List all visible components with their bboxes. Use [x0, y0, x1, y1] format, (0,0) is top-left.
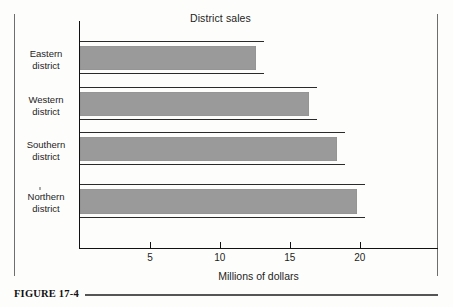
category-label-western-line1: Western	[16, 94, 76, 106]
chart-title: District sales	[190, 12, 251, 24]
scan-artifact-speck	[39, 187, 41, 190]
figure-caption: FIGURE 17-4	[14, 288, 438, 299]
x-tick-label-20: 20	[345, 252, 375, 263]
category-label-eastern: Eastern district	[16, 48, 76, 71]
category-label-southern-line1: Southern	[16, 139, 76, 151]
category-label-northern-line1: Northern	[16, 191, 76, 203]
category-label-northern: Northern district	[16, 191, 76, 214]
category-label-western-line2: district	[16, 106, 76, 118]
category-label-southern: Southern district	[16, 139, 76, 162]
bar-southern-bottom-edge	[80, 164, 345, 165]
bar-chart-figure: District sales Eastern district Western …	[0, 0, 453, 272]
bar-northern-bottom-edge	[80, 217, 365, 218]
category-label-eastern-line1: Eastern	[16, 48, 76, 60]
bar-eastern-bottom-edge	[80, 73, 264, 74]
x-tick-20	[360, 242, 361, 249]
category-label-western: Western district	[16, 94, 76, 117]
x-tick-10	[220, 242, 221, 249]
bar-southern-body[interactable]	[80, 137, 337, 161]
x-tick-label-5: 5	[135, 252, 165, 263]
figure-caption-rule	[85, 294, 438, 295]
bar-northern-body[interactable]	[80, 189, 357, 214]
bar-western-top-edge	[80, 87, 317, 88]
category-label-northern-line2: district	[16, 203, 76, 215]
x-axis-line	[79, 248, 438, 249]
category-label-southern-line2: district	[16, 151, 76, 163]
bar-eastern-body[interactable]	[80, 46, 256, 70]
bar-western-body[interactable]	[80, 92, 309, 116]
bar-eastern-top-edge	[80, 41, 264, 42]
bar-western-bottom-edge	[80, 119, 317, 120]
x-tick-label-15: 15	[275, 252, 305, 263]
bar-northern-top-edge	[80, 184, 365, 185]
scanned-page: District sales Eastern district Western …	[0, 0, 453, 307]
figure-caption-label: FIGURE 17-4	[14, 288, 79, 299]
x-tick-15	[290, 242, 291, 249]
x-tick-5	[150, 242, 151, 249]
x-axis-title: Millions of dollars	[79, 270, 438, 282]
x-tick-label-10: 10	[205, 252, 235, 263]
category-label-eastern-line2: district	[16, 60, 76, 72]
bar-southern-top-edge	[80, 132, 345, 133]
